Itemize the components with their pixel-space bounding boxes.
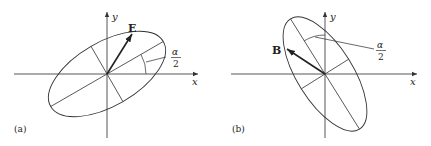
panel-a: E y x α 2 (a) <box>14 11 198 138</box>
panel-label: (a) <box>14 124 26 134</box>
angle-numerator: α <box>172 47 178 57</box>
panel-b: B y x α 2 (b) <box>231 4 417 144</box>
polarization-ellipse-figure: E y x α 2 (a) B y x α 2 (b) <box>0 0 431 146</box>
b-vector <box>287 49 325 74</box>
angle-numerator: α <box>377 40 383 50</box>
angle-denominator: 2 <box>173 59 179 69</box>
panel-label: (b) <box>232 124 245 134</box>
b-vector-label: B <box>272 44 281 57</box>
angle-arc <box>141 55 146 75</box>
x-axis-label: x <box>192 76 198 87</box>
y-axis-label: y <box>111 11 118 22</box>
y-axis-label: y <box>329 11 336 22</box>
e-vector <box>107 34 132 74</box>
e-vector-label: E <box>128 22 136 35</box>
angle-leader <box>315 37 374 49</box>
x-axis-label: x <box>410 76 416 87</box>
angle-denominator: 2 <box>378 52 384 62</box>
